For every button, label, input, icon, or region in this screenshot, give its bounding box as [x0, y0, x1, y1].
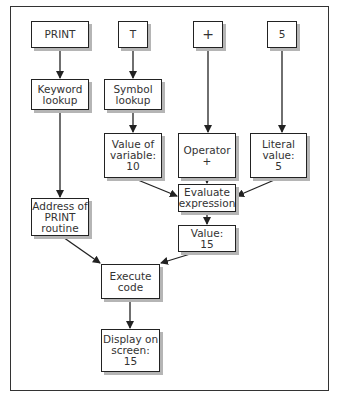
- node-address-of-print: Address of PRINT routine: [31, 198, 89, 236]
- node-value-of-variable: Value of variable: 10: [104, 133, 162, 178]
- node-plus: +: [193, 21, 223, 48]
- node-five: 5: [267, 21, 297, 48]
- node-literal-value: Literal value: 5: [250, 133, 307, 178]
- node-display-on-screen: Display on screen: 15: [101, 329, 160, 372]
- node-symbol-lookup: Symbol lookup: [104, 79, 162, 110]
- node-t: T: [118, 21, 148, 48]
- node-print: PRINT: [31, 21, 89, 48]
- node-keyword-lookup: Keyword lookup: [31, 79, 89, 110]
- node-evaluate-expression: Evaluate expression: [178, 184, 236, 212]
- node-execute-code: Execute code: [101, 264, 160, 299]
- node-operator: Operator +: [178, 133, 236, 178]
- node-value-15: Value: 15: [178, 225, 236, 252]
